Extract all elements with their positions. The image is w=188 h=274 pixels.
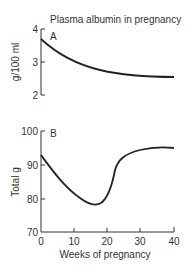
albumin-concentration-line: [41, 39, 174, 77]
y-tick-label: 100: [21, 126, 38, 137]
x-axis-label: Weeks of pregnancy: [60, 249, 151, 260]
x-tick-label: 0: [38, 236, 44, 247]
panel-letter-b: B: [50, 128, 57, 139]
panel-letter-a: A: [50, 31, 57, 42]
x-tick-label: 30: [134, 236, 146, 247]
y-axis-label-b: Total g: [10, 167, 21, 196]
panel-b: 100 90 80 70 0 10 20 30 40 B Total g Wee…: [10, 126, 180, 260]
y-axis-label-a: g/100 ml: [10, 43, 21, 81]
chart-title: Plasma albumin in pregnancy: [50, 14, 181, 25]
total-albumin-line: [41, 147, 174, 204]
chart-figure: Plasma albumin in pregnancy 4 3 2 A g/10…: [0, 0, 188, 274]
x-tick-label: 20: [101, 236, 113, 247]
x-tick-label: 10: [68, 236, 80, 247]
y-tick-label: 4: [32, 24, 38, 35]
y-tick-label: 90: [27, 160, 39, 171]
panel-a: 4 3 2 A g/100 ml: [10, 24, 174, 101]
y-tick-label: 70: [27, 227, 39, 238]
y-tick-label: 2: [32, 90, 38, 101]
x-tick-label: 40: [168, 236, 180, 247]
y-tick-label: 3: [32, 57, 38, 68]
y-tick-label: 80: [27, 194, 39, 205]
